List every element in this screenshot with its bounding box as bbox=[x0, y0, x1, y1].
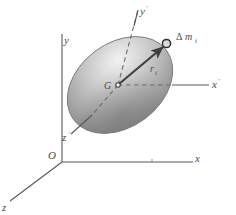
label-axis-z-prime-mark: ' bbox=[68, 130, 70, 138]
label-mass-element-letter: m bbox=[185, 31, 192, 42]
label-axis-x: x bbox=[194, 152, 200, 164]
label-mass-element: Δ m i bbox=[176, 31, 197, 45]
label-axis-x-prime-mark: ' bbox=[218, 77, 220, 85]
label-axis-x-prime-letter: x bbox=[211, 78, 217, 90]
label-origin: O bbox=[48, 149, 56, 161]
figure-canvas: O y x z y ' x ' z ' G r i Δ m i bbox=[0, 0, 236, 215]
label-axis-y-prime-letter: y bbox=[139, 5, 145, 17]
z-axis-line bbox=[10, 162, 62, 201]
label-position-vector-letter: r bbox=[150, 63, 154, 74]
label-axis-z: z bbox=[1, 201, 7, 213]
label-center-of-mass: G bbox=[104, 80, 111, 91]
label-axis-y-prime-mark: ' bbox=[146, 4, 148, 12]
label-axis-x-prime: x ' bbox=[211, 77, 220, 90]
mechanics-figure: O y x z y ' x ' z ' G r i Δ m i bbox=[0, 0, 236, 215]
center-of-mass-marker bbox=[116, 83, 120, 87]
label-axis-y: y bbox=[63, 34, 69, 46]
y-prime-axis-solid bbox=[134, 10, 138, 26]
label-mass-element-subscript: i bbox=[195, 37, 197, 45]
label-axis-z-prime-letter: z bbox=[61, 131, 67, 143]
label-axis-z-prime: z ' bbox=[61, 130, 70, 143]
label-mass-element-delta: Δ bbox=[176, 31, 183, 42]
mass-element-marker bbox=[162, 39, 170, 47]
label-position-vector-subscript: i bbox=[155, 69, 157, 77]
label-axis-y-prime: y ' bbox=[139, 4, 148, 17]
